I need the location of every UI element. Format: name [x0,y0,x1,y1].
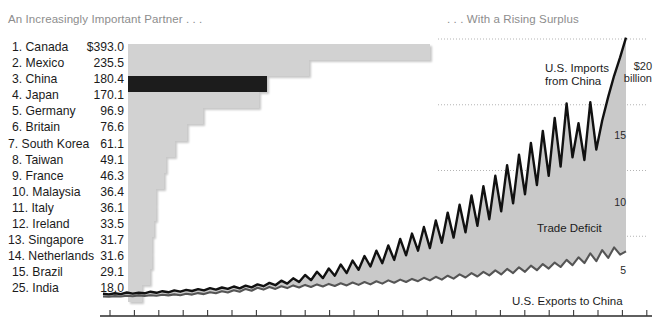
y-axis-tick-20: $20 [634,60,652,72]
ranking-country-name: 13. Singapore [0,233,110,247]
trade-infographic: An Increasingly Important Partner . . . … [0,0,656,323]
ranking-country-name: 9. France [0,169,110,183]
ranking-country-name: 14. Netherlands [0,249,110,263]
trade-deficit-label: Trade Deficit [537,222,602,235]
exports-series-label: U.S. Exports to China [512,295,623,308]
imports-series-label: U.S. Importsfrom China [545,62,609,88]
ranking-country-name: 11. Italy [0,201,110,215]
ranking-country-name: 15. Brazil [0,265,110,279]
y-axis-tick-5: 5 [620,264,626,276]
left-panel-title: An Increasingly Important Partner . . . [8,13,202,25]
imports-label-line1: U.S. Imports [545,62,609,75]
ranking-country-name: 12. Ireland [0,217,110,231]
y-axis-unit-label: billion [624,72,652,84]
y-axis-tick-10: 10 [614,196,626,208]
ranking-country-name: 25. India [0,281,110,295]
ranking-country-name: 5. Germany [0,104,110,118]
imports-label-line2: from China [545,75,609,88]
ranking-country-name: 6. Britain [0,120,110,134]
right-panel-title: . . . With a Rising Surplus [447,13,579,25]
ranking-country-name: 7. South Korea [0,137,110,151]
y-axis-tick-15: 15 [614,129,626,141]
ranking-country-name: 8. Taiwan [0,153,110,167]
ranking-country-name: 10. Malaysia [0,185,110,199]
